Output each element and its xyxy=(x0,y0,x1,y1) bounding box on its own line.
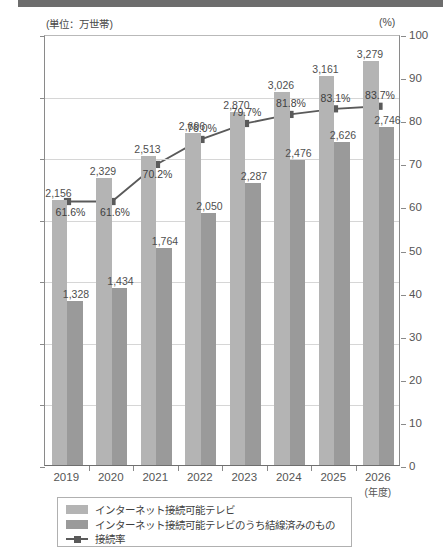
bar-series1 xyxy=(52,200,68,465)
right-axis-tick-label: 90 xyxy=(409,72,443,84)
rate-value-label: 70.2% xyxy=(143,168,173,180)
left-axis-tick-mark xyxy=(40,344,45,345)
left-axis-tick-mark xyxy=(40,159,45,160)
right-axis-tick-mark xyxy=(401,36,406,37)
bar-value-label-series1: 2,513 xyxy=(134,143,160,155)
right-axis-unit-label: (%) xyxy=(379,16,395,28)
bar-value-label-series2: 2,287 xyxy=(241,170,267,182)
x-axis-tick-label: 2025 xyxy=(320,471,346,483)
chart-legend: インターネット接続可能テレビインターネット接続可能テレビのうち結線済みのもの接続… xyxy=(57,497,352,547)
bar-series1 xyxy=(141,156,157,465)
legend-item-label: 接続率 xyxy=(95,531,125,546)
rate-value-label: 81.8% xyxy=(276,97,306,109)
x-axis-tick-label: 2019 xyxy=(53,471,79,483)
right-axis-tick-mark xyxy=(401,165,406,166)
legend-swatch-series2 xyxy=(66,520,88,529)
legend-item-label: インターネット接続可能テレビのうち結線済みのもの xyxy=(95,517,335,532)
bar-value-label-series2: 1,764 xyxy=(152,235,178,247)
right-axis-tick-mark xyxy=(401,122,406,123)
x-axis-tick-label: 2026(年度) xyxy=(364,471,391,499)
right-axis-tick-label: 30 xyxy=(409,331,443,343)
bar-value-label-series1: 3,026 xyxy=(268,79,294,91)
right-axis-tick-mark xyxy=(401,338,406,339)
bar-series2 xyxy=(112,288,128,465)
right-axis-tick-label: 40 xyxy=(409,288,443,300)
right-axis-tick-label: 10 xyxy=(409,417,443,429)
bar-series2 xyxy=(334,142,350,465)
bar-value-label-series1: 3,161 xyxy=(312,63,338,75)
bar-series1 xyxy=(96,178,112,465)
bar-value-label-series2: 1,328 xyxy=(63,288,89,300)
x-axis-tick-mark xyxy=(222,466,223,471)
bar-series2 xyxy=(201,213,217,465)
bar-series2 xyxy=(156,248,172,465)
bar-value-label-series1: 2,329 xyxy=(90,165,116,177)
left-axis-unit-label: (単位：万世帯) xyxy=(46,16,113,31)
bar-series2 xyxy=(379,127,395,465)
rate-value-label: 83.7% xyxy=(365,89,395,101)
bar-series2 xyxy=(245,183,261,465)
bar-value-label-series2: 1,434 xyxy=(107,275,133,287)
left-axis-tick-mark xyxy=(40,405,45,406)
right-axis-tick-label: 50 xyxy=(409,245,443,257)
bar-value-label-series1: 2,156 xyxy=(45,187,71,199)
bar-value-label-series2: 2,626 xyxy=(330,129,356,141)
x-axis-tick-mark xyxy=(178,466,179,471)
x-axis-tick-mark xyxy=(267,466,268,471)
left-axis-tick-mark xyxy=(40,98,45,99)
bar-series1 xyxy=(185,133,201,465)
right-axis-tick-label: 100 xyxy=(409,29,443,41)
right-axis-tick-mark xyxy=(401,467,406,468)
right-axis-tick-label: 20 xyxy=(409,374,443,386)
left-axis-tick-mark xyxy=(40,36,45,37)
bar-value-label-series2: 2,050 xyxy=(196,200,222,212)
rate-value-label: 61.6% xyxy=(100,206,130,218)
chart-figure: (単位：万世帯) (%) インターネット接続可能テレビインターネット接続可能テレ… xyxy=(0,0,443,554)
right-axis-tick-label: 70 xyxy=(409,158,443,170)
bar-series1 xyxy=(230,112,246,465)
x-axis-tick-mark xyxy=(89,466,90,471)
x-axis-tick-label: 2021 xyxy=(142,471,168,483)
rate-value-label: 83.1% xyxy=(321,92,351,104)
legend-item: インターネット接続可能テレビのうち結線済みのもの xyxy=(66,518,351,532)
legend-swatch-series1 xyxy=(66,505,88,514)
right-axis-tick-mark xyxy=(401,424,406,425)
x-axis-tick-label: 2024 xyxy=(276,471,302,483)
x-axis-unit-label: (年度) xyxy=(364,484,391,499)
bar-series2 xyxy=(67,301,83,465)
left-axis-tick-mark xyxy=(40,282,45,283)
x-axis-tick-label: 2022 xyxy=(187,471,213,483)
right-axis-tick-mark xyxy=(401,252,406,253)
bar-value-label-series2: 2,476 xyxy=(285,147,311,159)
legend-item-label: インターネット接続可能テレビ xyxy=(95,502,235,517)
bar-series2 xyxy=(290,160,306,465)
x-axis-tick-label: 2023 xyxy=(231,471,257,483)
x-axis-tick-label: 2020 xyxy=(98,471,124,483)
right-axis-tick-label: 60 xyxy=(409,201,443,213)
left-axis-tick-mark xyxy=(40,221,45,222)
right-axis-tick-mark xyxy=(401,79,406,80)
bar-value-label-series2: 2,746 xyxy=(374,114,400,126)
x-axis-tick-mark xyxy=(133,466,134,471)
right-axis-tick-mark xyxy=(401,381,406,382)
legend-item: 接続率 xyxy=(66,532,351,546)
right-axis-tick-mark xyxy=(401,208,406,209)
legend-line-marker xyxy=(66,534,88,543)
right-axis-tick-mark xyxy=(401,295,406,296)
rate-value-label: 76.0% xyxy=(187,122,217,134)
x-axis-tick-mark xyxy=(311,466,312,471)
right-axis-tick-label: 0 xyxy=(409,460,443,472)
bar-value-label-series1: 3,279 xyxy=(357,48,383,60)
rate-value-label: 61.6% xyxy=(56,206,86,218)
x-axis-tick-mark xyxy=(356,466,357,471)
legend-item: インターネット接続可能テレビ xyxy=(66,503,351,517)
right-axis-tick-label: 80 xyxy=(409,115,443,127)
left-axis-tick-mark xyxy=(40,467,45,468)
rate-value-label: 79.7% xyxy=(232,106,262,118)
